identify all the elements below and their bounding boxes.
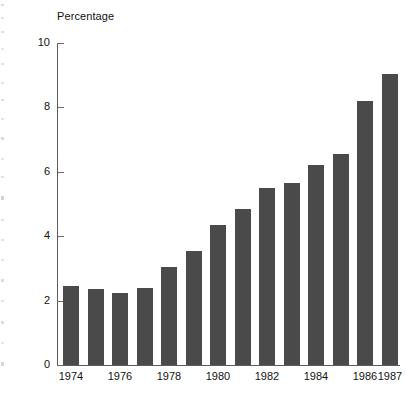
x-axis-tick-label: 1987 bbox=[365, 370, 407, 383]
bar bbox=[210, 225, 226, 365]
bar bbox=[357, 101, 373, 365]
x-axis-tick-label: 1976 bbox=[95, 370, 145, 383]
bar-chart-figure: Percentage 0246810 197419761978198019821… bbox=[0, 0, 407, 402]
x-axis-tick-label: 1978 bbox=[144, 370, 194, 383]
bar bbox=[235, 209, 251, 365]
bar bbox=[137, 288, 153, 365]
bar bbox=[308, 165, 324, 365]
bar bbox=[161, 267, 177, 365]
bar bbox=[88, 289, 104, 365]
bar bbox=[284, 183, 300, 365]
bar bbox=[63, 286, 79, 365]
x-axis-tick-label: 1980 bbox=[193, 370, 243, 383]
bar bbox=[259, 188, 275, 365]
bar bbox=[382, 74, 398, 365]
x-axis-tick-label: 1974 bbox=[46, 370, 96, 383]
bar bbox=[112, 293, 128, 365]
bars-layer bbox=[0, 0, 407, 402]
bar bbox=[333, 154, 349, 365]
bar bbox=[186, 251, 202, 365]
x-axis-tick-label: 1984 bbox=[291, 370, 341, 383]
x-axis-tick-label: 1982 bbox=[242, 370, 292, 383]
